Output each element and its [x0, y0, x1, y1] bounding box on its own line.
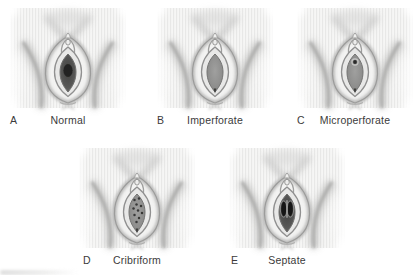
panel-label: Septate: [227, 253, 347, 267]
panel-label: Cribriform: [77, 253, 197, 267]
scan-artifact: [0, 270, 78, 275]
caption-e: E Septate: [227, 253, 347, 267]
panel-label: Normal: [8, 113, 128, 127]
panel-letter: C: [297, 113, 305, 127]
panel-normal: A Normal: [8, 6, 128, 127]
caption-b: B Imperforate: [155, 113, 275, 127]
panel-label: Microperforate: [295, 113, 415, 127]
cribriform-hymen-illustration: [77, 146, 197, 250]
figure-canvas: A Normal B Imperforate: [0, 0, 420, 275]
caption-a: A Normal: [8, 113, 128, 127]
panel-microperforate: C Microperforate: [295, 6, 415, 127]
panel-letter: D: [83, 253, 91, 267]
panel-label: Imperforate: [155, 113, 275, 127]
septate-hymen-illustration: [227, 146, 347, 250]
panel-imperforate: B Imperforate: [155, 6, 275, 127]
caption-d: D Cribriform: [77, 253, 197, 267]
imperforate-hymen-illustration: [155, 6, 275, 110]
caption-c: C Microperforate: [295, 113, 415, 127]
microperforate-hymen-illustration: [295, 6, 415, 110]
normal-hymen-illustration: [8, 6, 128, 110]
panel-letter: E: [231, 253, 238, 267]
panel-letter: A: [10, 113, 17, 127]
panel-septate: E Septate: [227, 146, 347, 267]
panel-letter: B: [157, 113, 164, 127]
panel-cribriform: D Cribriform: [77, 146, 197, 267]
